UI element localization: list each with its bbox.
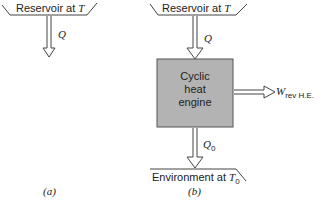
heat-flow-a-label: Q <box>58 29 66 40</box>
heat-out-label: Q0 <box>203 139 215 153</box>
work-arrow <box>234 86 275 98</box>
reservoir-b-label: Reservoir at T <box>162 3 230 14</box>
heat-in-arrow <box>187 16 203 59</box>
caption-b: (b) <box>188 186 201 197</box>
engine-label: Cyclic heat engine <box>157 70 233 109</box>
heat-arrow-a <box>43 16 55 57</box>
environment-label: Environment at T0 <box>152 172 240 186</box>
work-label: Wrev H.E. <box>276 86 314 100</box>
caption-a: (a) <box>43 186 56 197</box>
reservoir-a-label: Reservoir at T <box>16 3 84 14</box>
heat-in-label: Q <box>204 33 212 44</box>
heat-out-arrow <box>187 128 203 168</box>
